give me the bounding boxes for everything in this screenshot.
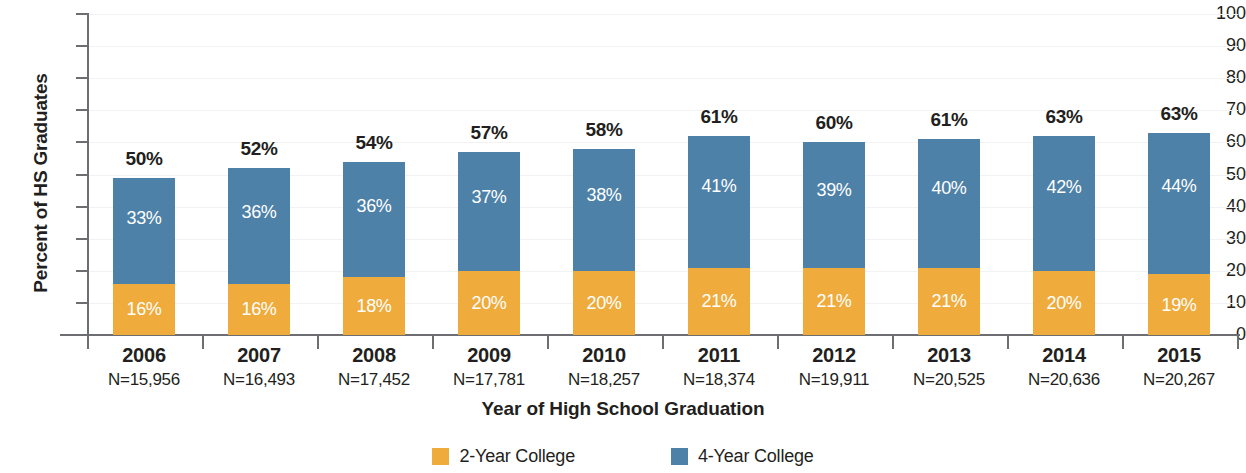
bar-total-label: 63%: [1017, 106, 1111, 128]
bar-segment-4-year: [343, 162, 405, 278]
x-axis-year-label: 2015: [1109, 344, 1246, 367]
plot-area: 16%33%50%16%36%52%18%36%54%20%37%57%20%3…: [88, 14, 1238, 335]
bar-segment-4-year: [1033, 136, 1095, 271]
bar-segment-label-4-year: 41%: [688, 176, 750, 197]
bar-segment-label-4-year: 37%: [458, 187, 520, 208]
bar-group: 19%44%63%: [1148, 14, 1210, 335]
bar-segment-label-4-year: 38%: [573, 185, 635, 206]
y-axis-title: Percent of HS Graduates: [30, 38, 52, 328]
bar-segment-4-year: [573, 149, 635, 271]
bar-total-label: 63%: [1132, 103, 1226, 125]
bar-segment-4-year: [688, 136, 750, 268]
bar-segment-4-year: [803, 142, 865, 267]
bar-group: 16%33%50%: [113, 14, 175, 335]
bar-segment-label-4-year: 42%: [1033, 177, 1095, 198]
bar-segment-label-4-year: 36%: [343, 196, 405, 217]
bar-segment-label-4-year: 33%: [113, 208, 175, 229]
bar-segment-4-year: [228, 168, 290, 284]
legend-item: 2-Year College: [432, 446, 575, 467]
legend-swatch-icon: [671, 448, 688, 465]
bar-segment-label-4-year: 44%: [1148, 176, 1210, 197]
bar-segment-4-year: [458, 152, 520, 271]
bar-group: 21%39%60%: [803, 14, 865, 335]
bar-segment-label-2-year: 21%: [918, 291, 980, 312]
bar-segment-label-2-year: 21%: [803, 291, 865, 312]
x-axis-title: Year of High School Graduation: [0, 398, 1246, 420]
bar-segment-4-year: [1148, 133, 1210, 274]
bar-total-label: 61%: [672, 106, 766, 128]
bar-group: 16%36%52%: [228, 14, 290, 335]
x-axis-category: 2015N=20,267: [1109, 344, 1246, 390]
bar-total-label: 52%: [212, 138, 306, 160]
bar-group: 21%41%61%: [688, 14, 750, 335]
legend-label: 2-Year College: [459, 446, 575, 467]
bar-total-label: 60%: [787, 112, 881, 134]
bar-segment-label-2-year: 16%: [113, 299, 175, 320]
bar-segment-label-4-year: 39%: [803, 180, 865, 201]
bar-segment-label-2-year: 20%: [573, 293, 635, 314]
stacked-bar-chart: Percent of HS Graduates 0102030405060708…: [0, 0, 1246, 473]
bar-group: 20%38%58%: [573, 14, 635, 335]
bar-group: 20%42%63%: [1033, 14, 1095, 335]
bar-group: 18%36%54%: [343, 14, 405, 335]
bar-segment-label-2-year: 20%: [1033, 293, 1095, 314]
bar-segment-label-4-year: 40%: [918, 178, 980, 199]
bar-segment-label-2-year: 21%: [688, 291, 750, 312]
legend-label: 4-Year College: [698, 446, 814, 467]
bar-segment-label-2-year: 19%: [1148, 295, 1210, 316]
bar-segment-label-2-year: 16%: [228, 299, 290, 320]
bar-total-label: 50%: [97, 148, 191, 170]
bar-total-label: 61%: [902, 109, 996, 131]
x-axis-sample-size-label: N=20,267: [1109, 370, 1246, 390]
bar-group: 20%37%57%: [458, 14, 520, 335]
legend-item: 4-Year College: [671, 446, 814, 467]
bar-total-label: 58%: [557, 119, 651, 141]
legend-swatch-icon: [432, 448, 449, 465]
bar-segment-label-2-year: 20%: [458, 293, 520, 314]
chart-legend: 2-Year College4-Year College: [0, 446, 1246, 467]
bar-total-label: 54%: [327, 132, 421, 154]
bar-segment-label-2-year: 18%: [343, 296, 405, 317]
bar-segment-4-year: [918, 139, 980, 267]
bar-group: 21%40%61%: [918, 14, 980, 335]
bar-segment-label-4-year: 36%: [228, 202, 290, 223]
bar-segment-4-year: [113, 178, 175, 284]
bar-total-label: 57%: [442, 122, 536, 144]
